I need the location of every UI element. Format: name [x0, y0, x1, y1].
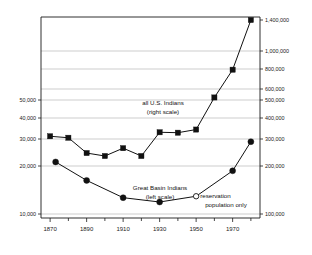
data-point-all-us-indians	[66, 135, 71, 140]
x-axis-tick-label: 1870	[43, 226, 57, 232]
right-axis-tick-label: 200,000	[265, 163, 285, 169]
data-point-all-us-indians	[84, 150, 89, 155]
right-axis-tick-label: 400,000	[265, 115, 285, 121]
data-point-great-basin-indians	[53, 159, 59, 165]
annotation-all-us-indians-label: all U.S. Indians	[142, 99, 184, 106]
data-point-great-basin-indians	[84, 177, 90, 183]
data-point-great-basin-indians	[120, 195, 126, 201]
right-axis-tick-label: 1,400,000	[265, 17, 289, 23]
data-point-great-basin-indians	[230, 168, 236, 174]
left-axis-tick-label: 40,000	[20, 115, 37, 121]
data-point-great-basin-indians	[248, 139, 254, 145]
left-axis-tick-label: 20,000	[20, 163, 37, 169]
right-axis-tick-label: 1,000,000	[265, 48, 289, 54]
annotation-all-us-indians-sub: (right scale)	[147, 108, 179, 115]
data-point-all-us-indians	[157, 130, 162, 135]
data-point-all-us-indians	[230, 67, 235, 72]
annotation-great-basin-label: Great Basin Indians	[133, 184, 187, 191]
data-point-all-us-indians	[248, 17, 253, 22]
left-axis-tick-label: 30,000	[20, 136, 37, 142]
data-point-all-us-indians	[175, 130, 180, 135]
x-axis-tick-label: 1970	[226, 226, 240, 232]
right-axis-tick-label: 600,000	[265, 86, 285, 92]
data-point-all-us-indians	[48, 134, 53, 139]
left-axis-tick-label: 10,000	[20, 211, 37, 217]
right-axis-tick-label: 800,000	[265, 66, 285, 72]
data-point-all-us-indians	[212, 95, 217, 100]
data-point-all-us-indians	[194, 127, 199, 132]
x-axis-tick-label: 1930	[153, 226, 167, 232]
right-axis-tick-label: 300,000	[265, 136, 285, 142]
annotation-reservation-line2: population only	[205, 201, 248, 208]
right-axis-tick-label: 100,000	[265, 211, 285, 217]
right-axis-tick-label: 500,000	[265, 97, 285, 103]
chart-container: 50,00040,00030,00020,00010,000 1,400,000…	[0, 0, 312, 255]
annotation-reservation-line1: reservation	[200, 192, 231, 199]
data-point-all-us-indians	[102, 153, 107, 158]
data-point-reservation-only	[193, 194, 198, 199]
population-line-chart: 50,00040,00030,00020,00010,000 1,400,000…	[0, 0, 312, 255]
x-axis-tick-label: 1890	[80, 226, 94, 232]
data-point-all-us-indians	[121, 146, 126, 151]
left-axis-tick-label: 50,000	[20, 97, 37, 103]
annotation-great-basin-sub: (left scale)	[146, 193, 175, 200]
data-point-all-us-indians	[139, 153, 144, 158]
x-axis-tick-label: 1910	[116, 226, 130, 232]
x-axis-tick-label: 1950	[189, 226, 203, 232]
